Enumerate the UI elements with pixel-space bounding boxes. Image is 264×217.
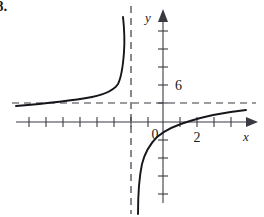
x-tick-label-2: 2 — [194, 130, 201, 145]
curve-left-branch — [16, 17, 124, 106]
x-axis-arrow-icon — [246, 117, 258, 127]
graph-canvas: y x 6 0 2 — [0, 0, 264, 217]
x-axis-label: x — [242, 129, 249, 144]
curve-right-branch — [138, 110, 246, 214]
x-tick-label-0: 0 — [152, 127, 159, 142]
y-tick-label-6: 6 — [175, 78, 182, 93]
y-axis-arrow-icon — [158, 9, 168, 22]
y-axis-label: y — [143, 10, 151, 25]
math-figure: 8. — [0, 0, 264, 217]
